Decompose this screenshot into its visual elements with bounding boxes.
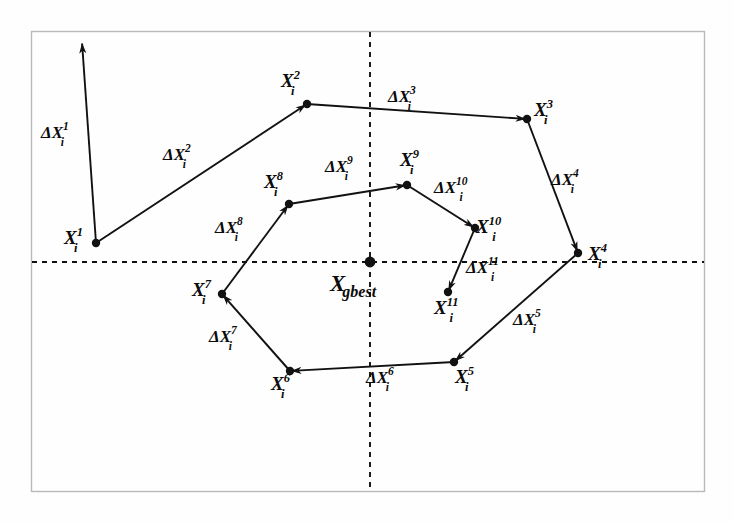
point-superscript: 4	[601, 241, 607, 255]
point-subscript: i	[291, 84, 294, 98]
vector-subscript: i	[61, 136, 64, 148]
vector-base: ΔX	[551, 170, 573, 189]
point-label-p6: X6i	[271, 374, 293, 397]
trajectory-diagram	[0, 0, 733, 522]
vector-base: ΔX	[163, 145, 185, 164]
point-label-p8: X8i	[264, 172, 286, 195]
gbest-label: Xgbest	[330, 272, 379, 295]
position-point-p8	[285, 200, 293, 208]
position-point-p2	[303, 100, 311, 108]
vector-superscript: 6	[388, 365, 394, 377]
point-label-p11: X11i	[434, 298, 462, 321]
point-superscript: 10	[489, 214, 502, 228]
position-point-p4	[574, 249, 582, 257]
vector-superscript: 8	[237, 215, 243, 227]
vector-d1	[82, 43, 96, 243]
vector-subscript: i	[345, 170, 348, 182]
vector-base: ΔX	[466, 258, 488, 277]
vector-base: ΔX	[215, 218, 237, 237]
point-superscript: 1	[77, 225, 83, 239]
vector-superscript: 4	[573, 167, 579, 179]
point-superscript: 7	[205, 277, 211, 291]
point-label-p2: X2i	[281, 71, 303, 94]
point-subscript: i	[465, 380, 468, 394]
point-superscript: 3	[547, 97, 553, 111]
position-point-p3	[523, 115, 531, 123]
vector-base: ΔX	[41, 123, 63, 142]
position-point-p5	[450, 358, 458, 366]
point-label-p7: X7i	[192, 280, 214, 303]
vector-label-d8: ΔX8i	[215, 218, 246, 240]
point-subscript: i	[274, 185, 277, 199]
point-subscript: i	[450, 311, 453, 325]
vector-subscript: i	[229, 340, 232, 352]
vector-label-d9: ΔX9i	[325, 157, 356, 179]
vector-label-d4: ΔX4i	[551, 170, 582, 192]
vector-subscript: i	[386, 381, 389, 393]
vector-label-d7: ΔX7i	[209, 327, 240, 349]
point-label-p1: X1i	[64, 228, 86, 251]
vector-base: ΔX	[366, 368, 388, 387]
vector-superscript: 7	[231, 324, 237, 336]
vector-label-d2: ΔX2i	[163, 145, 194, 167]
position-points	[92, 100, 582, 375]
vector-superscript: 11	[488, 255, 499, 267]
point-superscript: 5	[468, 364, 474, 378]
point-label-p5: X5i	[455, 367, 477, 390]
point-label-p3: X3i	[534, 100, 556, 123]
vector-base: ΔX	[388, 87, 410, 106]
vector-subscript: i	[491, 271, 494, 283]
vector-label-d6: ΔX6i	[366, 368, 397, 390]
vector-superscript: 2	[185, 142, 191, 154]
point-base: X	[476, 216, 489, 237]
vector-superscript: 10	[456, 175, 468, 187]
point-subscript: i	[492, 230, 495, 244]
vector-subscript: i	[183, 158, 186, 170]
point-label-p10: X10i	[476, 217, 505, 240]
point-superscript: 11	[447, 295, 459, 309]
vector-base: ΔX	[434, 178, 456, 197]
point-subscript: i	[202, 293, 205, 307]
vector-superscript: 5	[535, 307, 541, 319]
vector-subscript: i	[235, 231, 238, 243]
vector-label-d3: ΔX3i	[388, 87, 419, 109]
vector-label-d10: ΔX10i	[434, 178, 471, 200]
vector-label-d5: ΔX5i	[513, 310, 544, 332]
vector-base: ΔX	[209, 327, 231, 346]
vector-superscript: 3	[410, 84, 416, 96]
point-subscript: i	[74, 241, 77, 255]
vector-base: ΔX	[325, 157, 347, 176]
point-subscript: i	[410, 163, 413, 177]
position-point-p9	[403, 181, 411, 189]
vector-superscript: 9	[347, 154, 353, 166]
point-superscript: 6	[284, 371, 290, 385]
point-superscript: 8	[277, 169, 283, 183]
point-subscript: i	[544, 113, 547, 127]
vector-d9	[289, 185, 406, 204]
vector-subscript: i	[460, 191, 463, 203]
vector-label-d1: ΔX1i	[41, 123, 72, 145]
gbest-point	[365, 257, 376, 268]
point-subscript: i	[598, 257, 601, 271]
vector-label-d11: ΔX11i	[466, 258, 502, 280]
position-point-p7	[218, 290, 226, 298]
vector-arrows	[82, 43, 578, 371]
point-superscript: 2	[294, 68, 300, 82]
gbest-subscript: gbest	[342, 283, 376, 300]
vector-superscript: 1	[63, 120, 69, 132]
vector-subscript: i	[408, 100, 411, 112]
vector-base: ΔX	[513, 310, 535, 329]
point-label-p9: X9i	[400, 150, 422, 173]
point-subscript: i	[281, 387, 284, 401]
vector-subscript: i	[571, 183, 574, 195]
position-point-p1	[92, 239, 100, 247]
point-base: X	[434, 297, 447, 318]
vector-subscript: i	[533, 323, 536, 335]
point-label-p4: X4i	[588, 244, 610, 267]
point-superscript: 9	[413, 147, 419, 161]
figure-canvas: Xgbest X1iX2iX3iX4iX5iX6iX7iX8iX9iX10iX1…	[0, 0, 733, 522]
